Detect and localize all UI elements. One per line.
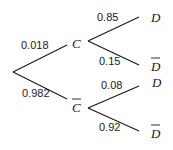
- prob-not-d-given-not-c: 0.92: [99, 121, 120, 133]
- node-not-c: C: [72, 100, 81, 115]
- leaf-not-d-1: D: [150, 59, 161, 74]
- prob-not-d-given-c: 0.15: [99, 55, 120, 67]
- leaf-not-d-2: D: [150, 126, 161, 141]
- leaf-d-2: D: [151, 75, 162, 90]
- prob-d-given-not-c: 0.08: [101, 79, 122, 91]
- prob-not-c: 0.982: [22, 87, 50, 99]
- prob-c: 0.018: [21, 39, 49, 51]
- leaf-d-1: D: [150, 10, 161, 25]
- probability-tree-diagram: 0.018 0.982 C C 0.85 0.15 0.08 0.92 D D …: [0, 0, 173, 150]
- prob-d-given-c: 0.85: [97, 11, 118, 23]
- node-c: C: [72, 36, 81, 51]
